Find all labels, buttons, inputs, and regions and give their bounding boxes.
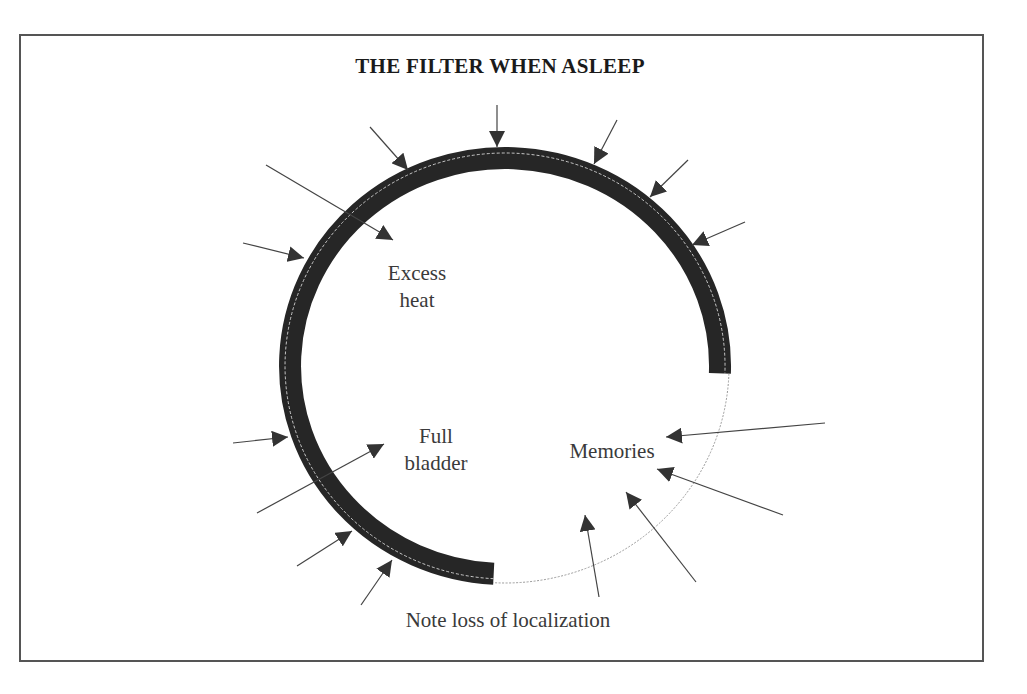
filter-ring (285, 153, 729, 583)
filter-gap-dotted-line (493, 374, 729, 583)
stimulus-arrow-icon (243, 243, 304, 258)
stimulus-arrow-icon (297, 531, 352, 566)
stimulus-arrow-icon (233, 437, 288, 443)
label-full: Full (405, 423, 468, 450)
stimulus-arrow-icon (650, 160, 688, 197)
label-excess: Excess (388, 260, 446, 287)
stimulus-arrow-icon (666, 423, 825, 437)
label-memories: Memories (569, 438, 654, 465)
stimulus-arrow-icon (361, 560, 392, 605)
filter-ring-diagram (0, 0, 1027, 694)
filter-band-solid (290, 158, 720, 574)
diagram-canvas: THE FILTER WHEN ASLEEP Excess heat Full … (0, 0, 1027, 694)
stimulus-arrow-icon (594, 120, 617, 164)
stimulus-arrow-icon (657, 469, 783, 515)
stimulus-arrow-icon (370, 127, 408, 170)
label-full-bladder: Full bladder (405, 423, 468, 477)
label-note-localization: Note loss of localization (406, 607, 611, 634)
stimulus-arrows (233, 105, 825, 605)
stimulus-arrow-icon (585, 515, 599, 597)
label-bladder: bladder (405, 450, 468, 477)
stimulus-arrow-icon (626, 492, 696, 582)
label-heat: heat (388, 287, 446, 314)
label-excess-heat: Excess heat (388, 260, 446, 314)
stimulus-arrow-icon (692, 222, 745, 245)
